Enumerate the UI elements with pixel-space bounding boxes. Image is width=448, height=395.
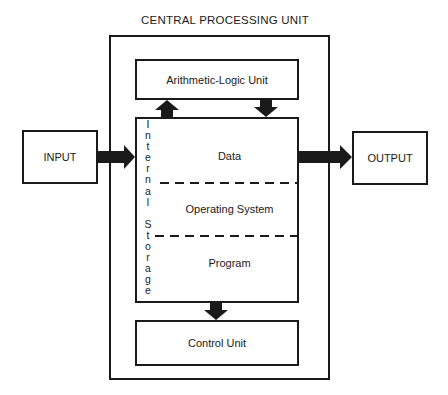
connectors-layer xyxy=(0,0,448,395)
arrow-storage-to-control-unit xyxy=(204,303,228,320)
arrow-storage-to-output xyxy=(299,145,352,169)
arrow-input-to-storage xyxy=(98,145,135,169)
arrow-storage-to-alu xyxy=(155,100,179,117)
arrow-alu-to-storage xyxy=(254,100,278,117)
